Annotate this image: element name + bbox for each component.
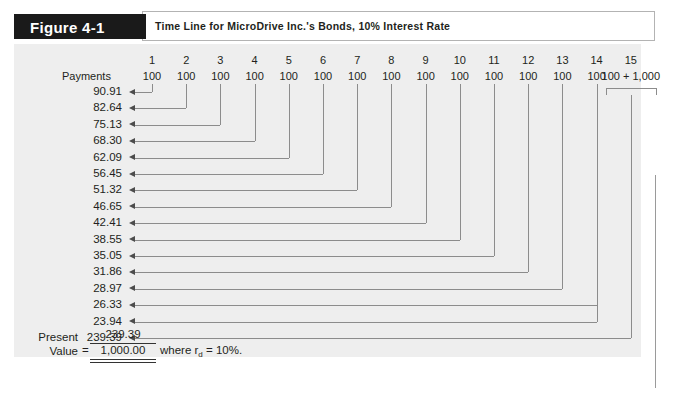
present-value-51.32: 51.32 [58,183,122,195]
present-value-75.13: 75.13 [58,118,122,130]
discount-rate-note-prefix: where r [160,344,198,356]
present-value-double-underline-2 [90,362,156,363]
present-value-26.33: 26.33 [58,298,122,310]
discount-rate-note: where rd = 10%. [160,344,242,359]
flow-line-row-15 [135,322,597,323]
payment-amount-period-2: 100 [177,70,195,82]
present-value-35.05: 35.05 [58,249,122,261]
drop-line-period-6-row-6 [323,84,324,174]
period-number-10: 10 [454,54,466,66]
payment-amount-period-6: 100 [314,70,332,82]
payment-amount-period-8: 100 [382,70,400,82]
present-value-62.09: 62.09 [58,151,122,163]
flow-line-row-1 [135,92,152,93]
payment-amount-period-3: 100 [211,70,229,82]
drop-line-period-2-row-2 [186,84,187,108]
period-number-12: 12 [522,54,534,66]
drop-line-period-12-row-12 [528,84,529,272]
flow-line-row-10 [135,240,460,241]
flow-line-row-13 [135,289,562,290]
payment-amount-period-1: 100 [143,70,161,82]
flow-line-row-9 [135,223,426,224]
period-number-13: 13 [556,54,568,66]
present-value-label: Present Value [18,330,78,358]
drop-line-period-11-row-11 [494,84,495,256]
flow-line-row-7 [135,190,357,191]
period-15-bracket-top [606,88,656,89]
discount-rate-note-suffix: = 10%. [203,344,242,356]
present-value-46.65: 46.65 [58,200,122,212]
present-value-42.41: 42.41 [58,216,122,228]
payment-amount-period-4: 100 [245,70,263,82]
flow-line-row-3 [135,125,220,126]
payment-amount-period-7: 100 [348,70,366,82]
flow-line-row-16 [135,338,631,339]
period-number-7: 7 [354,54,360,66]
period-number-4: 4 [252,54,258,66]
flow-line-row-14 [135,305,597,306]
present-value-label-line2: Value [49,345,78,357]
period-15-bracket-left [606,88,607,95]
period-number-14: 14 [590,54,602,66]
period-15-bracket-right [656,88,657,95]
drop-line-period-14-row-15 [597,84,598,322]
period-number-8: 8 [388,54,394,66]
flow-line-row-6 [135,174,323,175]
payments-row-label: Payments [62,70,111,82]
present-value-28.97: 28.97 [58,282,122,294]
drop-line-period-1-row-1 [152,84,153,92]
present-value-23.94: 23.94 [58,315,122,327]
present-value-numerator: 239.39 [92,328,154,340]
present-value-double-underline-1 [90,359,156,360]
present-value-68.30: 68.30 [58,134,122,146]
flow-line-row-5 [135,158,289,159]
drop-line-period-3-row-3 [220,84,221,125]
flow-line-row-11 [135,256,494,257]
payment-amount-period-11: 100 [485,70,503,82]
present-value-82.64: 82.64 [58,101,122,113]
present-value-equals: = [82,344,89,356]
period-number-1: 1 [149,54,155,66]
flow-line-row-8 [135,207,391,208]
flow-line-row-2 [135,108,186,109]
period-number-9: 9 [423,54,429,66]
drop-line-period-4-row-4 [255,84,256,141]
payment-amount-period-13: 100 [553,70,571,82]
drop-line-period-7-row-7 [357,84,358,190]
payment-amount-period-10: 100 [451,70,469,82]
present-value-38.55: 38.55 [58,233,122,245]
drop-line-period-9-row-9 [426,84,427,223]
period-number-5: 5 [286,54,292,66]
present-value-label-line1: Present [38,331,78,343]
present-value-31.86: 31.86 [58,265,122,277]
period-number-6: 6 [320,54,326,66]
drop-line-period-5-row-5 [289,84,290,158]
drop-line-period-8-row-8 [391,84,392,207]
period-number-3: 3 [217,54,223,66]
payment-amount-period-9: 100 [416,70,434,82]
drop-line-period-10-row-10 [460,84,461,240]
figure-root: Time Line for MicroDrive Inc.'s Bonds, 1… [0,0,682,393]
period-number-15: 15 [625,54,637,66]
payment-amount-period-5: 100 [280,70,298,82]
present-value-56.45: 56.45 [58,167,122,179]
payment-amount-period-12: 100 [519,70,537,82]
period-number-11: 11 [488,54,499,66]
payment-amount-period-15: 100 + 1,000 [602,70,660,82]
present-value-90.91: 90.91 [58,85,122,97]
flow-line-row-12 [135,272,528,273]
drop-line-period-13-row-13 [562,84,563,289]
present-value-total: 1,000.00 [92,344,154,356]
drop-line-period-15-row-16 [631,95,632,338]
period-number-2: 2 [183,54,189,66]
flow-line-row-4 [135,141,255,142]
